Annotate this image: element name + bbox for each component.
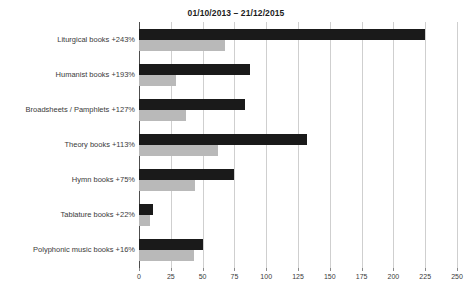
bar-light <box>139 40 225 51</box>
tick-mark-150 <box>330 268 331 271</box>
category-label: Hymn books +75% <box>6 175 139 184</box>
bar-light <box>139 75 176 86</box>
bar-dark <box>139 134 307 145</box>
bar-group <box>139 57 457 92</box>
bar-group <box>139 22 457 57</box>
tick-label-175: 175 <box>356 273 368 280</box>
category-label: Humanist books +193% <box>6 70 139 79</box>
tick-mark-0 <box>139 268 140 271</box>
bar-light <box>139 110 186 121</box>
gridline-250 <box>457 22 458 268</box>
bar-group <box>139 127 457 162</box>
tick-label-100: 100 <box>260 273 272 280</box>
bar-light <box>139 145 218 156</box>
x-axis: 0255075100125150175200225250 <box>139 268 457 292</box>
tick-mark-250 <box>457 268 458 271</box>
bar-light <box>139 250 194 261</box>
category-label: Tablature books +22% <box>6 210 139 219</box>
bar-dark <box>139 169 234 180</box>
tick-mark-175 <box>362 268 363 271</box>
tick-label-50: 50 <box>199 273 207 280</box>
tick-label-225: 225 <box>419 273 431 280</box>
tick-mark-225 <box>425 268 426 271</box>
tick-mark-75 <box>234 268 235 271</box>
bar-group <box>139 198 457 233</box>
bar-group <box>139 92 457 127</box>
bar-dark <box>139 99 245 110</box>
tick-label-25: 25 <box>167 273 175 280</box>
bar-chart: 01/10/2013 – 21/12/2015 Liturgical books… <box>0 0 472 297</box>
tick-mark-200 <box>393 268 394 271</box>
tick-label-250: 250 <box>451 273 463 280</box>
tick-label-150: 150 <box>324 273 336 280</box>
tick-label-0: 0 <box>137 273 141 280</box>
chart-title: 01/10/2013 – 21/12/2015 <box>0 8 472 18</box>
bar-group <box>139 163 457 198</box>
bar-light <box>139 180 195 191</box>
tick-label-200: 200 <box>388 273 400 280</box>
tick-label-125: 125 <box>292 273 304 280</box>
bar-group <box>139 233 457 268</box>
bar-dark <box>139 239 203 250</box>
bar-dark <box>139 29 425 40</box>
category-axis-labels: Liturgical books +243%Humanist books +19… <box>0 22 139 268</box>
bar-light <box>139 215 150 226</box>
tick-mark-125 <box>298 268 299 271</box>
tick-mark-25 <box>171 268 172 271</box>
plot-area <box>139 22 457 268</box>
category-label: Liturgical books +243% <box>6 35 139 44</box>
category-label: Broadsheets / Pamphlets +127% <box>6 105 139 114</box>
category-label: Theory books +113% <box>6 140 139 149</box>
category-label: Polyphonic music books +16% <box>6 245 139 254</box>
tick-mark-100 <box>266 268 267 271</box>
bar-dark <box>139 204 153 215</box>
bar-dark <box>139 64 250 75</box>
tick-label-75: 75 <box>230 273 238 280</box>
tick-mark-50 <box>203 268 204 271</box>
